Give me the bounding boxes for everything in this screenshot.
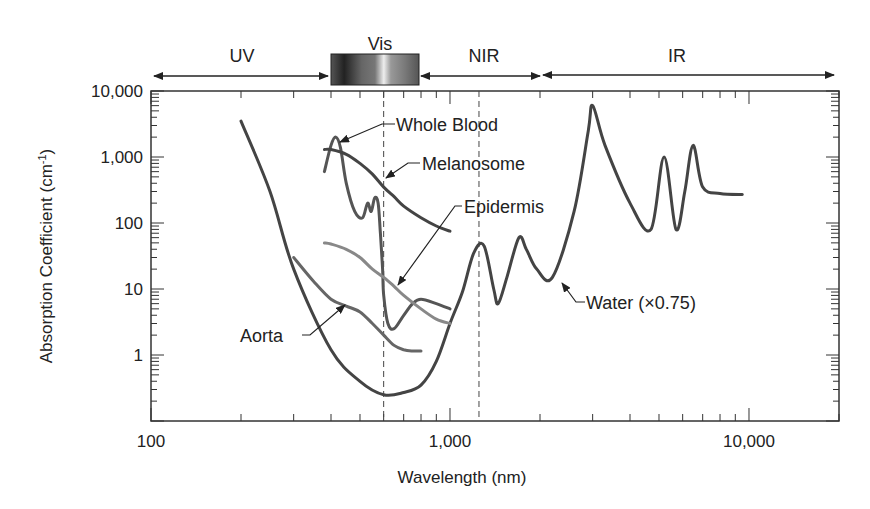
y-tick-label: 10 bbox=[124, 280, 143, 299]
y-tick-label: 100 bbox=[115, 214, 143, 233]
annotation-aorta: Aorta bbox=[240, 305, 345, 346]
y-axis-title: Absorption Coefficient (cm-1) bbox=[36, 149, 56, 364]
y-axis-title-close: ) bbox=[37, 149, 56, 155]
y-axis-title-sup: -1 bbox=[36, 154, 48, 164]
series-aorta bbox=[294, 258, 421, 352]
svg-text:Epidermis: Epidermis bbox=[464, 197, 544, 217]
band-label-uv: UV bbox=[229, 46, 254, 66]
y-axis-tick-labels: 10,0001,000100101 bbox=[91, 82, 143, 365]
series-epidermis bbox=[324, 243, 450, 324]
y-tick-label: 1,000 bbox=[100, 148, 143, 167]
annotation-whole-blood: Whole Blood bbox=[340, 115, 498, 142]
band-label-nir: NIR bbox=[469, 46, 500, 66]
svg-text:Melanosome: Melanosome bbox=[422, 154, 525, 174]
svg-text:Aorta: Aorta bbox=[240, 326, 284, 346]
svg-text:Water (×0.75): Water (×0.75) bbox=[586, 293, 696, 313]
annotation-water: Water (×0.75) bbox=[562, 283, 696, 313]
y-axis-title-main: Absorption Coefficient (cm bbox=[37, 164, 56, 363]
annotation-melanosome: Melanosome bbox=[386, 154, 525, 178]
visible-spectrum-bar bbox=[331, 54, 419, 85]
absorption-chart: UV Vis NIR IR 10,0001,000100101 1001,000… bbox=[0, 0, 870, 509]
plot-frame bbox=[151, 91, 839, 421]
spectral-bands: UV Vis NIR IR bbox=[154, 34, 834, 85]
x-axis-title: Wavelength (nm) bbox=[398, 468, 527, 487]
series-water-0-75 bbox=[241, 105, 742, 395]
x-axis-tick-labels: 1001,00010,000 bbox=[137, 432, 775, 451]
annotations: Whole Blood Melanosome Epidermis Aorta W… bbox=[240, 115, 696, 346]
x-tick-label: 100 bbox=[137, 432, 165, 451]
data-series bbox=[241, 105, 742, 395]
x-tick-label: 10,000 bbox=[723, 432, 775, 451]
band-label-ir: IR bbox=[668, 46, 686, 66]
svg-text:Whole Blood: Whole Blood bbox=[396, 115, 498, 135]
y-tick-label: 10,000 bbox=[91, 82, 143, 101]
band-label-vis: Vis bbox=[368, 34, 393, 54]
x-tick-label: 1,000 bbox=[429, 432, 472, 451]
y-tick-label: 1 bbox=[134, 346, 143, 365]
axis-ticks bbox=[151, 91, 839, 421]
